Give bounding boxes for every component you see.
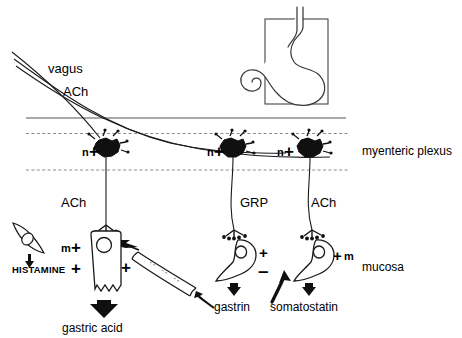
d-cell-body [294,240,334,281]
histamine-label: HISTAMINE [12,265,65,275]
blood-vessel-wall-lower [132,259,190,296]
neuron-3-sign-plus: + [284,143,294,160]
gastric-acid-arrow [90,300,118,318]
figure-canvas: vagus ACh n + n + n + myenteric plexus m… [0,0,462,338]
neuron-2-axon-terminal [226,230,243,237]
d-cell-ach-sign: + [333,248,342,263]
d-cell-muscarinic-receptor: m [344,251,354,262]
parietal-muscarinic-receptor: m [61,243,71,254]
postganglionic-ach-label-1: ACh [61,196,86,209]
g-cell-body [216,240,256,281]
vagus-ach-label: ACh [63,85,88,98]
d-cell [272,240,334,302]
parietal-cell [90,231,121,318]
g-cell-grp-sign: + [259,245,268,260]
diagram-vector-layer [0,0,462,338]
neuron-3-receptor-n: n [277,147,284,158]
neuron-2-receptor-n: n [207,147,214,158]
g-cell-somatostatin-sign: – [258,261,269,280]
blood-vessel-open-end-left [132,252,138,259]
blood-vessel-lumen-dots [150,262,180,282]
somatostatin-release-arrow [302,283,316,296]
parietal-gastrin-sign: + [121,259,131,276]
myenteric-neuron-3 [291,128,332,240]
neuron-2-axon [231,157,234,230]
neuron-3-axon [308,157,312,230]
postganglionic-ach-label-2: ACh [311,196,336,209]
ecl-cell [13,223,44,268]
mucosa-label: mucosa [362,261,404,273]
d-cell-nucleus [313,246,324,258]
somatostatin-inhibition-arrowhead [279,270,291,283]
parietal-cell-nucleus [97,238,112,253]
stomach-outline [241,7,325,105]
parietal-ach-sign: + [71,239,81,256]
grp-label: GRP [240,196,268,209]
myenteric-plexus-label: myenteric plexus [362,145,452,157]
gastrin-release-arrow [227,283,241,296]
somatostatin-label: somatostatin [270,301,338,313]
blood-vessel [121,240,196,296]
parietal-histamine-sign: + [71,260,81,277]
neuron-3-soma [297,138,323,157]
neuron-1-sign-plus: + [89,143,99,160]
stomach-inset [241,7,328,105]
g-cell [194,240,256,308]
gastrin-label: gastrin [214,301,250,313]
vagus-label: vagus [48,62,83,75]
g-cell-nucleus [235,246,246,258]
neuron-3-axon-terminal [304,230,321,237]
neuron-2-sign-plus: + [214,143,224,160]
gastric-acid-label: gastric acid [62,322,123,334]
gastrin-label-arrow-shaft [199,297,214,308]
neuron-1-receptor-n: n [82,147,89,158]
